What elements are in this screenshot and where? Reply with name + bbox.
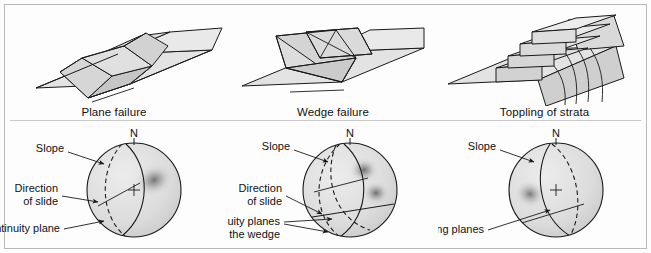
discontinuity-plane-label: Discontinuity plane xyxy=(0,222,60,234)
caption-wedge-failure: Wedge failure xyxy=(228,106,438,118)
slope-label: Slope xyxy=(36,142,64,154)
bedding-planes-label: Bedding planes xyxy=(438,223,484,235)
caption-plane-failure: Plane failure xyxy=(0,106,228,118)
toppling-stereonet: N Slope Bedding planes xyxy=(438,126,651,253)
slope-failure-modes-figure: Plane failure xyxy=(0,0,651,253)
slope-label: Slope xyxy=(262,140,290,152)
discontinuity-plane-leader xyxy=(64,221,104,229)
direction-of-slide-label-line2: of slide xyxy=(247,195,282,207)
direction-of-slide-label-line1: Direction xyxy=(15,182,58,194)
wedge-failure-block xyxy=(228,6,438,106)
panel-plane-failure: Plane failure xyxy=(0,0,228,253)
direction-of-slide-label-line2: of slide xyxy=(23,195,58,207)
north-label: N xyxy=(130,127,138,139)
plane-failure-stereonet: N Slope Direction of slide Discontinuity… xyxy=(0,126,228,253)
north-label: N xyxy=(346,127,354,139)
discontinuity-planes-label-line1: Discontinuity planes xyxy=(228,215,280,227)
plane-failure-block xyxy=(0,6,228,106)
slope-leader xyxy=(68,152,104,164)
pole-concentration-2 xyxy=(362,181,390,205)
panel-divider xyxy=(10,120,641,121)
wedge-failure-stereonet: N Slope Direction of slide Discontinuity… xyxy=(228,126,438,253)
caption-toppling-of-strata: Toppling of strata xyxy=(438,106,651,118)
toppling-block xyxy=(438,6,651,106)
panel-toppling-of-strata: Toppling of strata xyxy=(438,0,651,253)
discontinuity-planes-label-line2: forming the wedge xyxy=(228,228,280,240)
slope-label: Slope xyxy=(468,140,496,152)
north-label: N xyxy=(552,127,560,139)
direction-of-slide-label-line1: Direction xyxy=(239,182,282,194)
panel-wedge-failure: Wedge failure xyxy=(228,0,438,253)
